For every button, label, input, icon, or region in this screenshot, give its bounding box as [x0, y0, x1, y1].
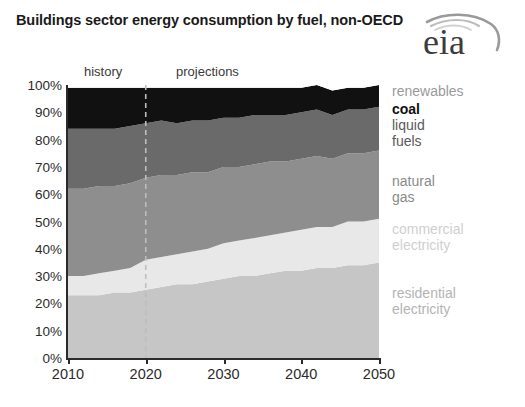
eia-logo: eia: [421, 10, 509, 62]
stacked-area-chart: [68, 85, 379, 358]
y-axis-labels: 0%10%20%30%40%50%60%70%80%90%100%: [0, 0, 62, 407]
y-tick-label: 0%: [0, 351, 62, 366]
x-axis-labels: 20102020203020402050: [0, 366, 525, 390]
y-tick-label: 10%: [0, 323, 62, 338]
x-axis-tick: [379, 358, 381, 364]
projections-label: projections: [176, 64, 239, 79]
y-tick-label: 90%: [0, 105, 62, 120]
y-tick-label: 30%: [0, 269, 62, 284]
x-tick-label: 2030: [207, 366, 239, 382]
legend-label-liquid-fuels: liquidfuels: [392, 118, 425, 150]
plot-area: [68, 85, 379, 358]
y-tick-label: 20%: [0, 296, 62, 311]
x-tick-label: 2050: [363, 366, 395, 382]
legend-label-renewables: renewables: [392, 84, 464, 100]
chart-page: Buildings sector energy consumption by f…: [0, 0, 525, 407]
x-axis-tick: [301, 358, 303, 364]
x-tick-label: 2040: [285, 366, 317, 382]
area-series-group: [68, 85, 379, 358]
legend-label-natural-gas: naturalgas: [392, 174, 435, 206]
page-title: Buildings sector energy consumption by f…: [16, 12, 416, 30]
y-axis-line: [66, 85, 68, 358]
x-tick-label: 2010: [52, 366, 84, 382]
svg-text:eia: eia: [423, 22, 465, 62]
legend-label-commercial-electricity: commercialelectricity: [392, 222, 464, 254]
y-tick-label: 70%: [0, 159, 62, 174]
y-tick-label: 80%: [0, 132, 62, 147]
y-tick-label: 40%: [0, 241, 62, 256]
y-tick-label: 100%: [0, 78, 62, 93]
x-tick-label: 2020: [130, 366, 162, 382]
x-axis-tick: [68, 358, 70, 364]
x-axis-tick: [224, 358, 226, 364]
chart-legend: renewablescoalliquidfuelsnaturalgascomme…: [392, 70, 525, 360]
legend-label-residential-electricity: residentialelectricity: [392, 286, 456, 318]
history-label: history: [84, 64, 122, 79]
y-tick-label: 60%: [0, 187, 62, 202]
legend-label-coal: coal: [392, 102, 420, 118]
y-tick-label: 50%: [0, 214, 62, 229]
x-axis-tick: [146, 358, 148, 364]
